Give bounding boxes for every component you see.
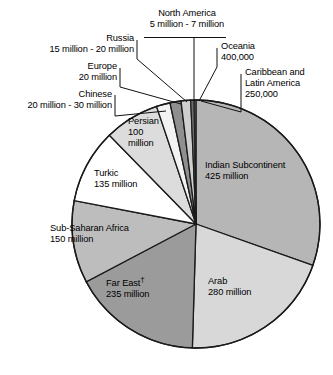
leader-russia-stem bbox=[137, 59, 187, 102]
label-persian-line1: Persian bbox=[128, 116, 180, 127]
label-arab-line1: Arab bbox=[208, 276, 286, 287]
label-caribbean-line2: Latin America bbox=[245, 78, 333, 89]
label-chinese-line2: 20 million - 30 million bbox=[2, 100, 112, 111]
label-caribbean-line1: Caribbean and bbox=[245, 67, 333, 78]
label-turkic: Turkic 135 million bbox=[94, 168, 174, 190]
label-indian-line1: Indian Subcontinent bbox=[205, 160, 309, 171]
label-far-east-line1: Far East† bbox=[106, 274, 192, 289]
label-caribbean-line3: 250,000 bbox=[245, 89, 333, 100]
label-oceania-line2: 400,000 bbox=[221, 52, 291, 63]
dagger-icon: † bbox=[140, 275, 144, 284]
label-caribbean-latin-america: Caribbean and Latin America 250,000 bbox=[245, 67, 333, 100]
label-far-east: Far East† 235 million bbox=[106, 274, 192, 300]
label-arab-line2: 280 million bbox=[208, 287, 286, 298]
leader-oceania-stem bbox=[199, 67, 217, 101]
label-north-america: North America 5 million - 7 million bbox=[144, 8, 230, 30]
pie-chart-figure: North America 5 million - 7 million Russ… bbox=[0, 0, 333, 375]
label-europe-line2: 20 million bbox=[6, 72, 117, 83]
label-indian-line2: 425 million bbox=[205, 171, 309, 182]
label-persian-line2: 100 bbox=[128, 127, 180, 138]
label-europe-line1: Europe bbox=[6, 61, 117, 72]
label-north-america-line2: 5 million - 7 million bbox=[144, 19, 230, 30]
label-turkic-line2: 135 million bbox=[94, 179, 174, 190]
label-russia-line1: Russia bbox=[6, 33, 134, 44]
label-indian-subcontinent: Indian Subcontinent 425 million bbox=[205, 160, 309, 182]
label-arab: Arab 280 million bbox=[208, 276, 286, 298]
label-russia: Russia 15 million - 20 million bbox=[6, 33, 134, 55]
label-oceania-line1: Oceania bbox=[221, 41, 291, 52]
label-chinese: Chinese 20 million - 30 million bbox=[2, 89, 112, 111]
label-sub-saharan-africa: Sub-Saharan Africa 150 million bbox=[50, 223, 162, 245]
label-persian-line3: million bbox=[128, 138, 180, 149]
label-chinese-line1: Chinese bbox=[2, 89, 112, 100]
label-persian: Persian 100 million bbox=[128, 116, 180, 149]
label-far-east-name: Far East bbox=[106, 278, 140, 288]
label-oceania: Oceania 400,000 bbox=[221, 41, 291, 63]
label-sub-saharan-line2: 150 million bbox=[50, 234, 162, 245]
label-far-east-line2: 235 million bbox=[106, 289, 192, 300]
label-sub-saharan-line1: Sub-Saharan Africa bbox=[50, 223, 162, 234]
label-north-america-line1: North America bbox=[144, 8, 230, 19]
label-turkic-line1: Turkic bbox=[94, 168, 174, 179]
label-europe: Europe 20 million bbox=[6, 61, 117, 83]
label-russia-line2: 15 million - 20 million bbox=[6, 44, 134, 55]
